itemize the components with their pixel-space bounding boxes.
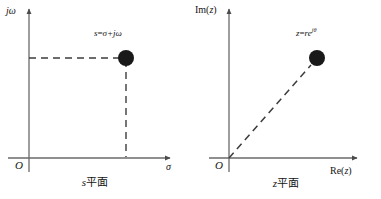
panel-s-plane: jω σ O s=σ+jω s平面 bbox=[0, 0, 190, 199]
z-plane-x-axis-label: Re(z) bbox=[330, 166, 352, 176]
s-plane-origin-label: O bbox=[15, 160, 23, 171]
z-plane-point-label-base: re bbox=[305, 28, 312, 38]
figure-s-and-z-planes: jω σ O s=σ+jω s平面 bbox=[0, 0, 381, 199]
z-plane-radius-guide bbox=[229, 65, 311, 158]
panel-z-plane: Im(z) Re(z) O z=rejθ z平面 bbox=[191, 0, 381, 199]
z-plane-point-label-exponent: jθ bbox=[312, 27, 317, 33]
s-plane-point-label: s=σ+jω bbox=[94, 29, 122, 38]
z-plane-origin-label: O bbox=[215, 160, 223, 171]
s-plane-caption: s平面 bbox=[45, 177, 145, 188]
z-plane-point-marker bbox=[309, 50, 325, 66]
s-plane-point-label-value: σ+jω bbox=[103, 28, 122, 38]
z-plane-y-axis-label-fn: Im bbox=[195, 4, 206, 15]
z-plane-caption-suffix: 平面 bbox=[277, 177, 299, 189]
z-plane-point-label: z=rejθ bbox=[296, 29, 316, 38]
s-plane-point-marker bbox=[118, 50, 134, 66]
z-plane-x-axis-label-fn: Re bbox=[330, 165, 341, 176]
z-plane-caption: z平面 bbox=[236, 178, 336, 189]
s-plane-y-axis-label: jω bbox=[6, 6, 16, 16]
z-plane-y-axis-label: Im(z) bbox=[195, 5, 217, 15]
s-plane-x-axis-label: σ bbox=[166, 162, 171, 172]
s-plane-caption-suffix: 平面 bbox=[86, 176, 108, 188]
